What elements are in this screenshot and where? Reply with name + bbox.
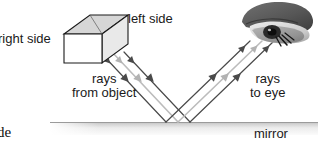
cropped-page-text: de xyxy=(0,124,11,141)
label-rays-to-eye: rays to eye xyxy=(250,72,285,100)
label-rays-from-object-line2: from object xyxy=(72,86,136,100)
object-slab xyxy=(64,15,128,63)
label-left-side: left side xyxy=(128,12,173,26)
label-rays-from-object-line1: rays xyxy=(72,72,136,86)
figure-canvas: right side left side rays from object ra… xyxy=(0,0,318,149)
label-right-side: right side xyxy=(0,32,51,46)
label-rays-from-object: rays from object xyxy=(72,72,136,100)
label-rays-to-eye-line2: to eye xyxy=(250,86,285,100)
eye-illustration xyxy=(242,2,313,46)
label-rays-to-eye-line1: rays xyxy=(250,72,285,86)
label-mirror: mirror xyxy=(254,127,288,141)
